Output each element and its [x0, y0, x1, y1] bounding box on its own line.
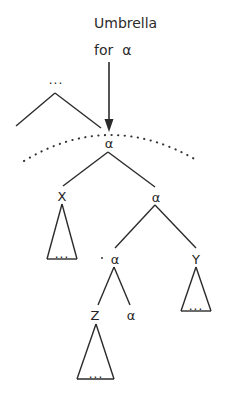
context-branches-top: [16, 93, 101, 128]
down-arrow-pointer: [105, 62, 114, 132]
caption-line-for: for α: [94, 43, 131, 57]
node-x: X: [58, 190, 67, 203]
subtree-ellipsis-z: ...: [89, 368, 103, 380]
tree-diagram-figure: Umbrella for α ... α X α α Y Z α ... ...…: [0, 0, 233, 403]
node-y: Y: [192, 253, 200, 266]
branches-second-alpha: [115, 205, 196, 248]
node-alpha-third: α: [111, 253, 120, 266]
context-ellipsis-top: ...: [49, 74, 63, 86]
node-alpha-leaf: α: [127, 309, 136, 322]
node-alpha-root: α: [105, 137, 114, 150]
tick-dot-left-of-alpha-third: [101, 257, 103, 259]
caption-alpha-symbol: α: [122, 42, 131, 58]
tree-drawing-canvas: [0, 0, 233, 403]
node-z: Z: [91, 309, 100, 322]
node-alpha-second: α: [152, 191, 161, 204]
branches-root-alpha: [63, 152, 155, 187]
subtree-ellipsis-y: ...: [189, 300, 203, 312]
caption-line-umbrella: Umbrella: [94, 16, 157, 30]
caption-for-word: for: [94, 42, 113, 58]
subtree-ellipsis-x: ...: [55, 248, 69, 260]
branches-third-alpha: [98, 267, 130, 305]
